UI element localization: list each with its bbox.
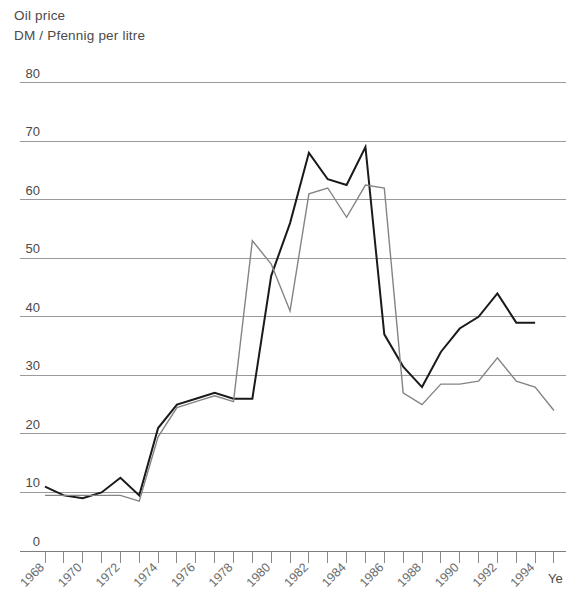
series-grey: [45, 185, 554, 501]
x-tick-label-1976: 1976: [168, 560, 198, 590]
x-tick-label-1982: 1982: [281, 560, 311, 590]
oil-price-chart: Oil price DM / Pfennig per litre 8070605…: [0, 0, 576, 598]
x-tick-label-1986: 1986: [357, 560, 387, 590]
y-tick-label-60: 60: [26, 183, 40, 198]
x-tick-label-1992: 1992: [470, 560, 500, 590]
x-tick-label-1972: 1972: [93, 560, 123, 590]
x-tick-label-1980: 1980: [244, 560, 274, 590]
x-axis-tick-labels: 1968197019721974197619781980198219841986…: [18, 560, 538, 590]
y-tick-label-50: 50: [26, 241, 40, 256]
y-tick-label-10: 10: [26, 475, 40, 490]
y-tick-label-0: 0: [33, 534, 40, 549]
chart-plot-area: 80706050403020100 1968197019721974197619…: [0, 0, 576, 598]
y-tick-label-30: 30: [26, 358, 40, 373]
x-tick-label-1970: 1970: [55, 560, 85, 590]
x-tick-label-1974: 1974: [131, 560, 161, 590]
y-tick-label-40: 40: [26, 300, 40, 315]
x-tick-label-1988: 1988: [395, 560, 425, 590]
y-axis-tick-labels: 80706050403020100: [26, 66, 40, 549]
y-tick-label-20: 20: [26, 417, 40, 432]
x-tick-label-1984: 1984: [319, 560, 349, 590]
x-tick-label-1978: 1978: [206, 560, 236, 590]
x-tick-label-1990: 1990: [432, 560, 462, 590]
y-tick-label-70: 70: [26, 124, 40, 139]
x-tick-label-1994: 1994: [508, 560, 538, 590]
x-tick-label-1968: 1968: [18, 560, 48, 590]
x-axis-title: Ye: [548, 571, 563, 586]
y-tick-label-80: 80: [26, 66, 40, 81]
gridlines: [20, 83, 566, 551]
